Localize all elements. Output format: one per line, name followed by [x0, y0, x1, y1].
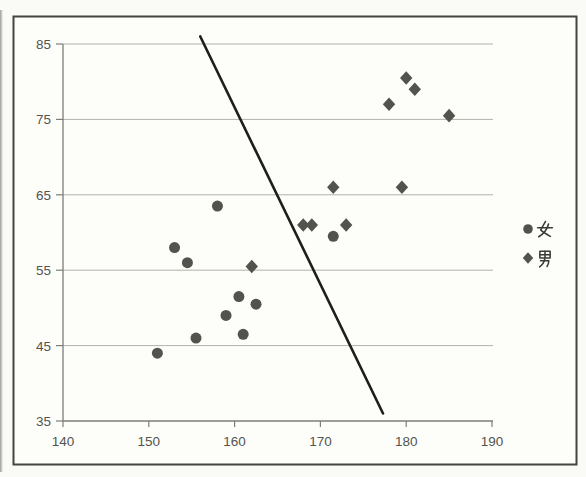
x-tick-label-160: 160: [223, 434, 246, 449]
x-tick-label-170: 170: [309, 434, 332, 449]
data-point-female-3: [190, 333, 201, 344]
y-tick-label-45: 45: [36, 339, 51, 354]
y-tick-label-55: 55: [36, 263, 51, 278]
y-tick-label-85: 85: [36, 37, 51, 52]
legend-marker-female: [523, 224, 533, 234]
scatter-chart: 354555657585140150160170180190: [0, 0, 586, 477]
scatter-chart-page: 354555657585140150160170180190 女 男: [0, 0, 586, 477]
data-point-female-1: [169, 242, 180, 253]
data-point-female-4: [212, 201, 223, 212]
x-tick-label-140: 140: [52, 434, 75, 449]
x-tick-label-150: 150: [138, 434, 161, 449]
data-point-female-8: [251, 299, 262, 310]
data-point-female-9: [328, 231, 339, 242]
x-tick-label-190: 190: [481, 434, 504, 449]
data-point-female-2: [182, 257, 193, 268]
x-tick-label-180: 180: [395, 434, 418, 449]
y-tick-label-35: 35: [36, 414, 51, 429]
data-point-female-0: [152, 348, 163, 359]
chart-frame: [14, 17, 577, 465]
y-tick-label-65: 65: [36, 188, 51, 203]
data-point-female-5: [221, 310, 232, 321]
y-tick-label-75: 75: [36, 112, 51, 127]
data-point-female-7: [238, 329, 249, 340]
data-point-female-6: [233, 291, 244, 302]
